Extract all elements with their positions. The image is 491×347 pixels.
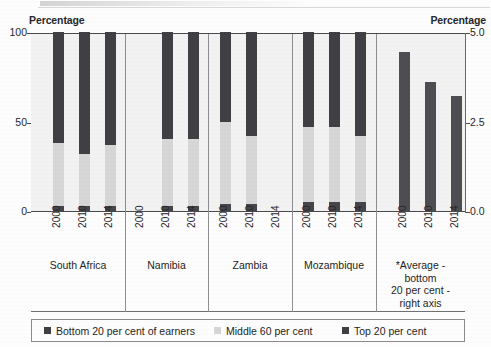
bar-column — [105, 32, 116, 211]
bar-segment-top — [79, 32, 90, 154]
legend-swatch-top-icon — [342, 327, 349, 334]
x-axis-year-label: 2010 — [423, 205, 434, 228]
legend-label-bottom: Bottom 20 per cent of earners — [56, 325, 195, 337]
legend-item-bottom: Bottom 20 per cent of earners — [44, 325, 195, 337]
x-axis-year-label: 2010 — [327, 205, 338, 228]
bar-column — [246, 32, 257, 211]
legend-label-middle: Middle 60 per cent — [226, 325, 312, 337]
x-axis-group-label: *Average - bottom 20 per cent - right ax… — [376, 259, 465, 309]
bar-column — [162, 32, 173, 211]
x-axis-year-label: 2014 — [353, 205, 364, 228]
bar-column — [303, 32, 314, 211]
y-axis-tickmark-right — [466, 33, 470, 34]
bar-segment-middle — [188, 139, 199, 205]
bar-segment-middle — [79, 154, 90, 206]
y-axis-tick-label-right: 2.5 — [470, 116, 485, 128]
bar-column — [451, 96, 462, 211]
legend-label-top: Top 20 per cent — [354, 325, 426, 337]
bar-segment-top — [162, 32, 173, 139]
bar-segment-top — [246, 32, 257, 136]
y-axis-tick-label-left: 100 — [9, 26, 27, 38]
bar-segment-middle — [105, 145, 116, 206]
header-rule — [38, 7, 490, 8]
x-axis-year-label: 2014 — [186, 205, 197, 228]
bar-column — [220, 32, 231, 211]
x-axis-year-label: 2000 — [134, 205, 145, 228]
bar-column — [53, 32, 64, 211]
bar-segment-middle — [220, 122, 231, 204]
bar-column — [425, 82, 436, 211]
bar-segment-average — [425, 82, 436, 211]
bar-segment-top — [329, 32, 340, 127]
left-axis-caption: Percentage — [29, 14, 85, 26]
scan-artifact-line — [40, 1, 340, 6]
bar-segment-top — [220, 32, 231, 122]
x-axis-year-label: 2014 — [270, 205, 281, 228]
right-axis-caption: Percentage — [430, 14, 486, 26]
x-axis-year-label: 2000 — [397, 205, 408, 228]
bar-segment-middle — [329, 127, 340, 202]
bar-segment-middle — [53, 143, 64, 206]
group-separator — [292, 34, 293, 213]
y-axis-tick-label-right: 5.0 — [470, 26, 485, 38]
x-axis-year-label: 2010 — [244, 205, 255, 228]
x-axis-year-label: 2010 — [77, 205, 88, 228]
x-axis-group-label: Mozambique — [292, 259, 376, 272]
bar-segment-average — [399, 52, 410, 211]
group-separator — [208, 34, 209, 213]
bar-column — [188, 32, 199, 211]
group-separator — [125, 34, 126, 213]
x-axis-year-label: 2000 — [301, 205, 312, 228]
group-separator — [125, 213, 126, 312]
bar-segment-average — [451, 96, 462, 211]
x-axis-group-label: South Africa — [31, 259, 125, 272]
x-axis-year-label: 2000 — [218, 205, 229, 228]
bar-segment-top — [105, 32, 116, 145]
chart-legend: Bottom 20 per cent of earners Middle 60 … — [31, 319, 465, 342]
y-axis-tick-label-right: 0.0 — [470, 205, 485, 217]
group-separator — [376, 213, 377, 312]
plot-bars-layer — [31, 34, 465, 211]
y-axis-tickmark-right — [466, 123, 470, 124]
bar-column — [399, 52, 410, 211]
x-axis-group-label: Namibia — [125, 259, 208, 272]
legend-swatch-bottom-icon — [44, 327, 51, 334]
legend-item-middle: Middle 60 per cent — [214, 325, 312, 337]
x-axis-year-label: 2010 — [160, 205, 171, 228]
x-axis-group-label: Zambia — [208, 259, 292, 272]
x-axis-label-band: 2000201020142000201020142000201020142000… — [31, 213, 465, 312]
y-axis-tickmark-right — [466, 212, 470, 213]
x-axis-year-label: 2000 — [51, 205, 62, 228]
legend-item-top: Top 20 per cent — [342, 325, 426, 337]
y-axis-tickmark-left — [27, 33, 31, 34]
group-separator — [292, 213, 293, 312]
bar-segment-middle — [162, 139, 173, 205]
legend-swatch-middle-icon — [214, 327, 221, 334]
bar-segment-top — [53, 32, 64, 143]
bar-segment-top — [355, 32, 366, 136]
plot-area — [31, 33, 465, 212]
bar-column — [79, 32, 90, 211]
group-separator — [376, 34, 377, 213]
bar-segment-middle — [246, 136, 257, 204]
bar-segment-middle — [355, 136, 366, 202]
y-axis-tick-label-left: 0 — [21, 205, 27, 217]
x-axis-year-label: 2014 — [103, 205, 114, 228]
group-separator — [208, 213, 209, 312]
chart-figure: Percentage Percentage 1005005.02.50.0 20… — [0, 0, 491, 347]
y-axis-tickmark-left — [27, 123, 31, 124]
x-axis-year-label: 2014 — [449, 205, 460, 228]
bar-segment-top — [188, 32, 199, 139]
bar-column — [329, 32, 340, 211]
bar-column — [355, 32, 366, 211]
bar-segment-top — [303, 32, 314, 127]
bar-segment-middle — [303, 127, 314, 202]
y-axis-tick-label-left: 50 — [15, 116, 27, 128]
